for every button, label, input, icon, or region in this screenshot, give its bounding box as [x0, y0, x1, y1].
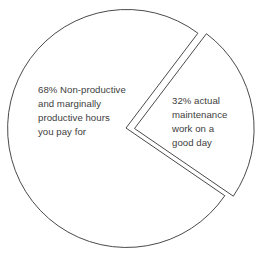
pie-chart: 68% Non-productive and marginally produc… [0, 0, 262, 257]
pie-slice-label-non-productive-hours: 68% Non-productive and marginally produc… [38, 83, 136, 139]
pie-slice-label-actual-maintenance-work: 32% actual maintenance work on a good da… [172, 94, 238, 150]
